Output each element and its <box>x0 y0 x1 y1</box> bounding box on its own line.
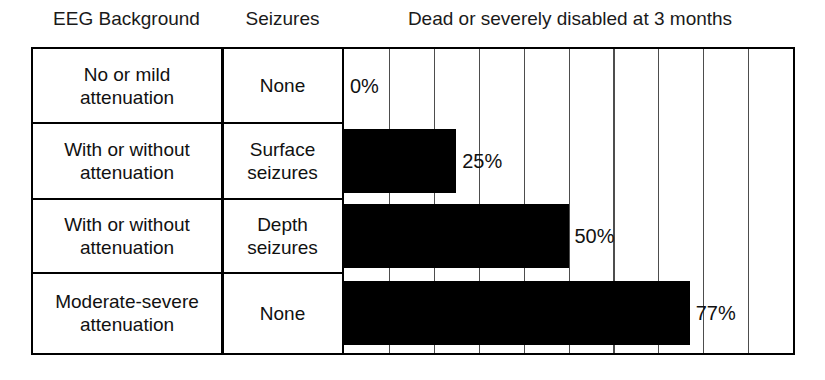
bar-chart-panel: 0% 25% 50% 77% <box>344 49 793 353</box>
bar-value-label-1: 25% <box>456 150 502 172</box>
column-header-eeg-background: EEG Background <box>31 8 222 30</box>
bar-2 <box>344 204 569 268</box>
table-cell-seizures-3: None <box>223 273 342 353</box>
table-cell-eeg-1: With or without attenuation <box>33 123 221 198</box>
column-divider-1 <box>221 49 224 353</box>
eeg-outcome-figure: EEG Background Seizures Dead or severely… <box>0 0 825 380</box>
bar-row-1: 25% <box>344 123 793 198</box>
bar-row-2: 50% <box>344 199 793 272</box>
bar-3 <box>344 281 690 345</box>
bar-row-3: 77% <box>344 273 793 353</box>
bar-value-label-3: 77% <box>690 302 736 324</box>
row-divider-3 <box>33 272 342 274</box>
bar-value-label-0: 0% <box>344 75 379 97</box>
column-seizures: None Surface seizures Depth seizures Non… <box>223 49 342 353</box>
table-cell-eeg-3: Moderate-severe attenuation <box>33 273 221 353</box>
row-divider-1 <box>33 122 342 124</box>
table-cell-seizures-1: Surface seizures <box>223 123 342 198</box>
column-eeg-background: No or mild attenuation With or without a… <box>33 49 221 353</box>
table-cell-eeg-0: No or mild attenuation <box>33 49 221 122</box>
row-divider-2 <box>33 198 342 200</box>
outcome-table: No or mild attenuation With or without a… <box>31 47 795 355</box>
table-cell-seizures-2: Depth seizures <box>223 199 342 272</box>
column-header-seizures: Seizures <box>222 8 343 30</box>
table-cell-seizures-0: None <box>223 49 342 122</box>
column-header-outcome: Dead or severely disabled at 3 months <box>344 8 796 30</box>
bar-row-0: 0% <box>344 49 793 122</box>
table-cell-eeg-2: With or without attenuation <box>33 199 221 272</box>
bar-value-label-2: 50% <box>569 225 615 247</box>
bar-1 <box>344 129 456 193</box>
